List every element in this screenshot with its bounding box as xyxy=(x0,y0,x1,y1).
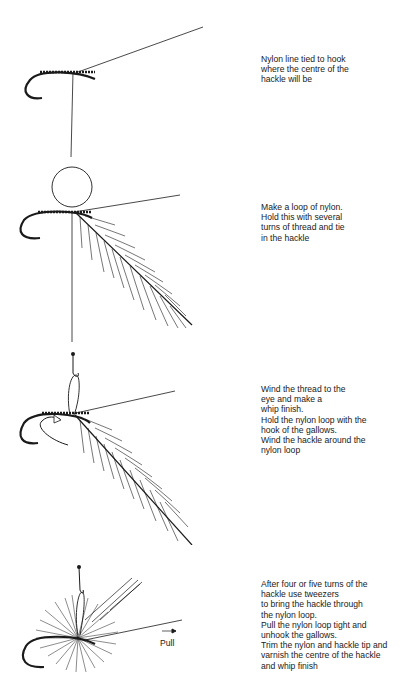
thread-line xyxy=(71,72,73,157)
nylon-pull-line xyxy=(85,620,182,640)
hook-icon xyxy=(23,637,95,667)
step-4-text: After four or five turns of the hackle u… xyxy=(261,579,403,671)
hook-icon xyxy=(26,72,95,98)
step-1-text: Nylon line tied to hook where the centre… xyxy=(261,54,403,85)
gallows-hook xyxy=(73,354,78,376)
nylon-loop xyxy=(52,167,92,207)
illustration-step-1 xyxy=(0,0,250,165)
hackle-feather-icon xyxy=(75,212,192,328)
hackle-feather-icon xyxy=(75,415,192,545)
illustration-step-4: Pull xyxy=(0,540,250,678)
hackle-tip-icon xyxy=(85,578,142,622)
nylon-line xyxy=(78,27,203,72)
step-2-text: Make a loop of nylon. Hold this with sev… xyxy=(261,202,403,243)
step-3-text: Wind the thread to the eye and make a wh… xyxy=(261,384,403,455)
illustration-step-2 xyxy=(0,160,250,350)
pull-arrow-icon xyxy=(162,629,176,633)
nylon-loop xyxy=(68,375,79,415)
illustration-step-3 xyxy=(0,345,250,545)
pull-label: Pull xyxy=(160,638,174,648)
